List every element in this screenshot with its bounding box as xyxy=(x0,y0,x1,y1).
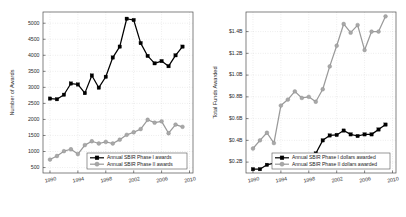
data-point xyxy=(132,130,136,134)
legend-label: Annual SBIR Phase II awards xyxy=(107,161,173,167)
data-point xyxy=(370,133,373,136)
data-point xyxy=(153,121,157,125)
data-point xyxy=(384,123,387,126)
legend-swatch-marker xyxy=(95,162,99,166)
xtick-label: 2002 xyxy=(128,175,141,183)
xtick-label: 1994 xyxy=(275,175,288,183)
data-point xyxy=(76,83,79,86)
legend-swatch-marker xyxy=(95,156,99,160)
data-point xyxy=(48,158,52,162)
ytick-label: $1.2B xyxy=(229,50,243,56)
data-point xyxy=(363,48,367,52)
data-point xyxy=(139,41,142,44)
data-point xyxy=(153,62,156,65)
data-point xyxy=(111,142,115,146)
data-point xyxy=(314,100,318,104)
data-point xyxy=(125,133,129,137)
y-axis-title: Number of Awards xyxy=(9,69,15,115)
ytick-label: 4500 xyxy=(28,36,40,42)
data-point xyxy=(377,128,380,131)
ytick-label: $1.4B xyxy=(229,28,243,34)
data-point xyxy=(258,138,262,142)
data-point xyxy=(328,134,331,137)
ytick-label: 2500 xyxy=(28,100,40,106)
data-point xyxy=(286,98,290,102)
ytick-label: $0.8B xyxy=(229,93,243,99)
legend-label: Annual SBIR Phase II dollars awarded xyxy=(292,161,377,167)
data-point xyxy=(167,131,171,135)
data-point xyxy=(321,139,324,142)
data-point xyxy=(118,138,122,142)
data-point xyxy=(293,90,297,94)
xtick-label: 1990 xyxy=(247,175,260,183)
data-point xyxy=(356,23,360,27)
data-point xyxy=(118,45,121,48)
xtick-label: 2002 xyxy=(331,175,344,183)
data-point xyxy=(104,75,107,78)
data-point xyxy=(97,86,100,89)
data-point xyxy=(48,97,51,100)
data-point xyxy=(167,65,170,68)
xtick-label: 1990 xyxy=(44,175,57,183)
data-point xyxy=(132,18,135,21)
ytick-label: $0.4B xyxy=(229,137,243,143)
data-point xyxy=(83,91,86,94)
data-point xyxy=(111,56,114,59)
data-point xyxy=(321,87,325,91)
ytick-label: 2000 xyxy=(28,116,40,122)
data-point xyxy=(384,14,388,18)
data-point xyxy=(146,118,150,122)
ytick-label: 3500 xyxy=(28,68,40,74)
ytick-label: 3000 xyxy=(28,84,40,90)
data-point xyxy=(90,139,94,143)
data-point xyxy=(160,59,163,62)
xtick-label: 2010 xyxy=(387,175,400,183)
data-point xyxy=(76,152,80,156)
data-point xyxy=(328,64,332,68)
data-point xyxy=(55,154,59,158)
data-point xyxy=(139,127,143,131)
data-point xyxy=(342,22,346,26)
data-point xyxy=(160,119,164,123)
data-point xyxy=(69,82,72,85)
data-point xyxy=(258,167,261,170)
xtick-label: 1998 xyxy=(303,175,316,183)
data-point xyxy=(265,131,269,135)
data-point xyxy=(90,74,93,77)
data-point xyxy=(181,45,184,48)
legend-swatch-marker xyxy=(280,162,284,166)
data-point xyxy=(69,147,73,151)
y-axis-title: Total Funds Awarded xyxy=(212,66,218,118)
data-point xyxy=(349,31,353,35)
data-point xyxy=(125,17,128,20)
data-point xyxy=(356,134,359,137)
ytick-label: 1000 xyxy=(28,148,40,154)
xtick-label: 2006 xyxy=(156,175,169,183)
awards-chart-panel: 5001000150020002500300035004000450050001… xyxy=(0,0,203,217)
funds-chart-panel: $0.2B$0.4B$0.6B$0.8B$1.0B$1.2B$1.4B19901… xyxy=(203,0,406,217)
data-point xyxy=(349,133,352,136)
data-point xyxy=(251,147,255,151)
legend-label: Annual SBIR Phase I awards xyxy=(107,154,172,160)
data-point xyxy=(174,123,178,127)
data-point xyxy=(335,44,339,48)
legend-swatch-marker xyxy=(280,156,284,160)
awards-chart-svg: 5001000150020002500300035004000450050001… xyxy=(0,0,203,217)
data-point xyxy=(335,133,338,136)
legend-label: Annual SBIR Phase I dollars awarded xyxy=(292,154,376,160)
data-point xyxy=(62,93,65,96)
data-point xyxy=(300,96,304,100)
xtick-label: 2006 xyxy=(359,175,372,183)
figure-container: 5001000150020002500300035004000450050001… xyxy=(0,0,406,217)
series-line-1 xyxy=(50,19,183,100)
data-point xyxy=(62,149,66,153)
series-line-2 xyxy=(253,16,386,148)
data-point xyxy=(265,163,268,166)
data-point xyxy=(174,54,177,57)
data-point xyxy=(307,95,311,99)
xtick-label: 1994 xyxy=(72,175,85,183)
ytick-label: 1500 xyxy=(28,132,40,138)
data-point xyxy=(146,54,149,57)
data-point xyxy=(104,140,108,144)
data-point xyxy=(181,125,185,129)
